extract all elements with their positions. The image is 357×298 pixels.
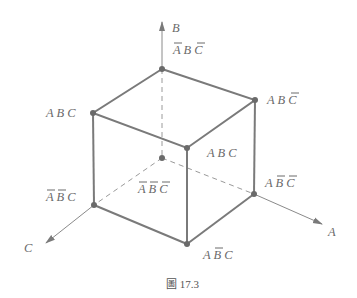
figure-caption: 圖 17.3: [166, 278, 200, 290]
svg-text:A B C: A B C: [206, 146, 237, 160]
label-right-bottom: A B C: [264, 176, 297, 190]
label-left-bottom: A B C: [45, 190, 76, 204]
c-axis-label: C: [24, 241, 33, 255]
hidden-edges: [94, 69, 254, 205]
svg-text:A B C: A B C: [137, 182, 168, 196]
a-axis-label: A: [327, 225, 336, 239]
svg-text:A B C: A B C: [172, 43, 203, 57]
label-front-top: A B C: [206, 146, 237, 160]
svg-text:A B C: A B C: [45, 106, 76, 120]
svg-text:A B C: A B C: [264, 176, 295, 190]
svg-text:A B C: A B C: [266, 93, 297, 107]
svg-text:A B C: A B C: [45, 190, 76, 204]
c-axis: [46, 205, 94, 243]
label-right-top: A B C: [266, 93, 299, 107]
cube-diagram: B A C A B C A B C A B C A B C A B C A B …: [0, 0, 357, 298]
label-top-back: A B C: [172, 43, 205, 57]
b-axis-label: B: [172, 21, 180, 35]
label-front-bottom: A B C: [202, 248, 233, 262]
a-axis: [254, 194, 322, 224]
label-left-top: A B C: [45, 106, 76, 120]
label-origin: A B C: [137, 182, 170, 196]
svg-text:A B C: A B C: [202, 248, 233, 262]
